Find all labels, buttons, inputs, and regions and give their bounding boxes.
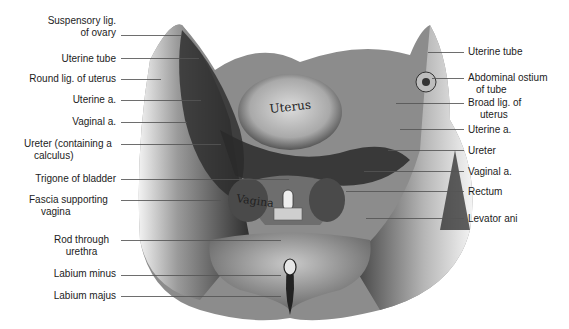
label-uterine-a-left: Uterine a. bbox=[73, 94, 116, 106]
fimbriae-shape bbox=[416, 72, 436, 92]
label-ureter-calculus: Ureter (containing a calculus) bbox=[24, 138, 112, 161]
leader-uterine-tube-right bbox=[428, 52, 464, 53]
label-trigone-bladder: Trigone of bladder bbox=[35, 173, 116, 185]
label-labium-minus: Labium minus bbox=[54, 268, 116, 280]
label-vaginal-a-left: Vaginal a. bbox=[72, 116, 116, 128]
leader-uterine-a-right bbox=[400, 129, 464, 130]
leader-vaginal-a-right bbox=[364, 171, 464, 172]
leader-levator-ani bbox=[366, 218, 464, 219]
leader-rod-urethra bbox=[121, 240, 281, 241]
leader-broad-lig bbox=[396, 103, 464, 104]
anatomy-figure: Uterus Vagina Suspensory lig. of ovary U… bbox=[0, 0, 569, 329]
label-round-lig-uterus: Round lig. of uterus bbox=[29, 73, 116, 85]
leader-rectum bbox=[346, 191, 464, 192]
label-vaginal-a-right: Vaginal a. bbox=[468, 166, 512, 178]
label-fascia-supporting-vagina: Fascia supporting vagina bbox=[29, 194, 108, 217]
leader-labium-majus bbox=[121, 296, 281, 297]
label-broad-lig-uterus: Broad lig. of uterus bbox=[468, 97, 521, 120]
label-rectum: Rectum bbox=[468, 186, 502, 198]
leader-round-lig bbox=[121, 79, 161, 80]
label-levator-ani: Levator ani bbox=[468, 213, 517, 225]
label-labium-majus: Labium majus bbox=[54, 290, 116, 302]
leader-abdominal-ostium bbox=[432, 78, 464, 79]
leader-uterine-a-left bbox=[121, 100, 201, 101]
leader-suspensory-lig bbox=[121, 35, 181, 36]
leader-labium-minus bbox=[121, 275, 281, 276]
leader-ureter-calculus bbox=[121, 144, 221, 145]
label-uterine-tube-left: Uterine tube bbox=[62, 53, 116, 65]
leader-uterine-tube-left bbox=[121, 58, 199, 59]
label-abdominal-ostium: Abdominal ostium of tube bbox=[468, 72, 547, 95]
label-uterine-a-right: Uterine a. bbox=[468, 124, 511, 136]
leader-vaginal-a-left bbox=[121, 122, 187, 123]
leader-ureter-right bbox=[388, 150, 464, 151]
label-ureter-right: Ureter bbox=[468, 145, 496, 157]
label-rod-through-urethra: Rod through urethra bbox=[54, 234, 109, 257]
leader-trigone bbox=[121, 179, 289, 180]
label-uterine-tube-right: Uterine tube bbox=[468, 46, 522, 58]
label-suspensory-lig-ovary: Suspensory lig. of ovary bbox=[48, 15, 116, 38]
leader-fascia-vagina bbox=[121, 200, 221, 201]
